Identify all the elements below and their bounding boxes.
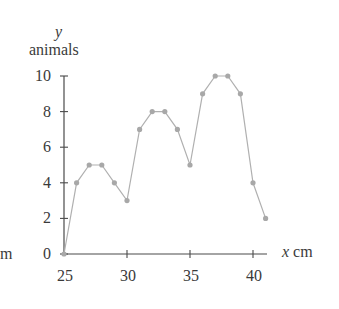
x-tick-label: 35 (183, 267, 199, 284)
data-point (87, 162, 92, 167)
data-point (137, 127, 142, 132)
y-tick-label: 6 (43, 138, 51, 155)
data-point (213, 73, 218, 78)
data-point (162, 109, 167, 114)
x-axis-variable: x (281, 243, 289, 260)
data-series (61, 73, 268, 256)
y-tick-label: 10 (35, 67, 51, 84)
x-tick-label: 30 (120, 267, 136, 284)
data-point (99, 162, 104, 167)
data-point (61, 251, 66, 256)
data-point (187, 162, 192, 167)
data-point (124, 198, 129, 203)
data-point (200, 91, 205, 96)
data-point (74, 180, 79, 185)
left-edge-text: m (0, 245, 13, 262)
data-point (250, 180, 255, 185)
y-tick-label: 8 (43, 103, 51, 120)
data-point (238, 91, 243, 96)
data-point (175, 127, 180, 132)
data-point (225, 73, 230, 78)
x-axis-label: xcm (281, 243, 313, 260)
y-axis-variable: y (53, 23, 63, 41)
y-axis-unit: animals (29, 41, 79, 58)
data-point (263, 216, 268, 221)
y-tick-label: 0 (43, 245, 51, 262)
y-tick-label: 4 (43, 174, 51, 191)
x-tick-label: 40 (246, 267, 262, 284)
y-tick-label: 2 (43, 209, 51, 226)
line-chart: 024681025303540 m y animals xcm (0, 0, 339, 309)
data-point (112, 180, 117, 185)
data-point (150, 109, 155, 114)
x-axis-unit: cm (293, 243, 313, 260)
x-tick-label: 25 (57, 267, 73, 284)
axes: 024681025303540 (35, 67, 267, 284)
series-line (64, 76, 266, 254)
